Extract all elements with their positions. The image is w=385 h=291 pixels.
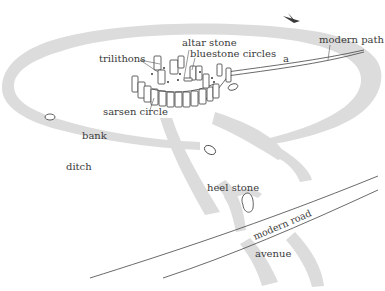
label-ditch: ditch <box>66 161 92 172</box>
label-altar-stone: altar stone <box>182 37 237 48</box>
label-heel-stone: heel stone <box>207 182 259 193</box>
station-stone <box>45 114 55 120</box>
station-stone-2 <box>203 144 217 157</box>
label-bluestone-circles: bluestone circles <box>190 48 276 59</box>
compass-arrow-icon <box>283 13 300 23</box>
heel-stone-shape <box>242 193 253 212</box>
stone-circle <box>132 56 239 107</box>
label-trilithons: trilithons <box>99 53 145 64</box>
label-sarsen-circle: sarsen circle <box>103 106 168 117</box>
label-bank: bank <box>82 130 108 141</box>
stonehenge-diagram: trilithons altar stone bluestone circles… <box>0 0 385 291</box>
label-modern-road: modern road <box>251 207 312 241</box>
label-marker-a: a <box>283 53 289 64</box>
label-avenue: avenue <box>255 248 291 259</box>
label-modern-path: modern path <box>319 34 385 45</box>
